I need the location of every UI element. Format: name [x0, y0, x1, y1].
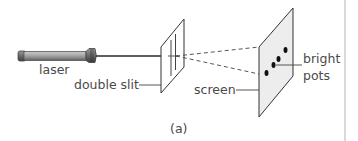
laser-icon	[18, 49, 96, 63]
double-slit-plate	[161, 19, 184, 93]
bright-spot	[284, 47, 288, 53]
bright-spots-label-line1: bright	[303, 51, 340, 66]
diffracted-rays	[176, 47, 259, 74]
diagram-canvas: laser double slit screen bright pots (a)	[0, 0, 358, 141]
laser-label: laser	[39, 62, 70, 77]
bright-spot	[277, 56, 281, 62]
bright-spot	[265, 70, 269, 76]
bright-spots-label-line2: pots	[303, 68, 330, 83]
double-slit-experiment-figure: laser double slit screen bright pots (a)	[0, 0, 358, 141]
screen-label: screen	[194, 82, 236, 97]
panel-divider	[344, 0, 346, 141]
screen	[259, 8, 293, 117]
double-slit-label: double slit	[74, 77, 139, 92]
bright-spot	[272, 62, 276, 68]
figure-caption: (a)	[170, 121, 187, 136]
